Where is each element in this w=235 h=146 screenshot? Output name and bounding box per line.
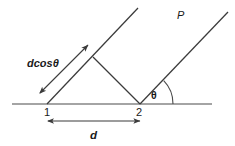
path-difference-diagram: 1 2 dcosθ d θ P — [0, 0, 235, 146]
dcostheta-label: dcosθ — [27, 57, 59, 69]
angle-arc — [164, 81, 173, 104]
theta-angle-label: θ — [151, 89, 157, 101]
left-ray-line — [47, 8, 138, 104]
plane-p-label: P — [177, 9, 185, 21]
point-1-label: 1 — [44, 106, 50, 118]
diagram-canvas: 1 2 dcosθ d θ P — [0, 0, 235, 146]
point-2-label: 2 — [136, 106, 142, 118]
distance-d-label: d — [90, 129, 98, 141]
perpendicular-segment — [93, 57, 140, 104]
